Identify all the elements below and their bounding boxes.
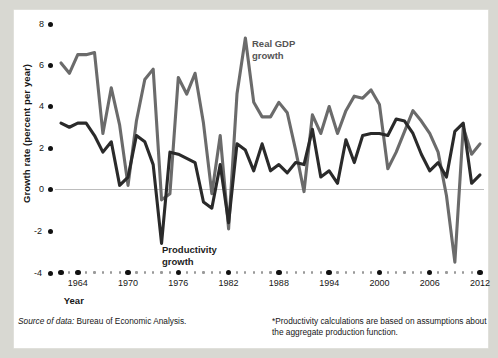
x-axis-minor-dot [454, 271, 456, 273]
x-tick-label-1970: 1970 [108, 278, 148, 288]
x-axis-minor-dot [160, 271, 162, 273]
x-axis-major-dot [477, 270, 483, 276]
x-axis-major-dot [125, 270, 131, 276]
x-axis-minor-dot [119, 271, 121, 273]
x-axis-minor-dot [202, 271, 204, 273]
figure-panel: Growth rate (percent per year) 8 6 4 2 0… [14, 10, 488, 348]
x-axis-minor-dot [211, 271, 213, 273]
x-axis-minor-dot [336, 271, 338, 273]
productivity-footnote: *Productivity calculations are based on … [272, 316, 487, 337]
x-axis-minor-dot [194, 271, 196, 273]
x-axis-minor-dot [445, 271, 447, 273]
x-axis-minor-dot [85, 271, 87, 273]
x-tick-label-2006: 2006 [410, 278, 450, 288]
annotation-real-gdp-growth: Real GDP growth [252, 38, 295, 61]
x-axis-minor-dot [236, 271, 238, 273]
x-tick-label-1964: 1964 [58, 278, 98, 288]
x-tick-label-2012: 2012 [460, 278, 498, 288]
x-axis-minor-dot [144, 271, 146, 273]
x-axis-minor-dot [471, 271, 473, 273]
x-axis-minor-dot [403, 271, 405, 273]
x-axis-major-dot [276, 270, 282, 276]
x-axis-minor-dot [370, 271, 372, 273]
x-tick-spare: 2000 [359, 278, 399, 288]
x-axis-minor-dot [169, 271, 171, 273]
source-note-lead: Source of data: [18, 316, 74, 326]
x-axis-minor-dot [303, 271, 305, 273]
x-axis-minor-dot [261, 271, 263, 273]
x-axis-minor-dot [152, 271, 154, 273]
annotation-productivity-growth: Productivity growth [162, 244, 217, 267]
x-axis-minor-dot [295, 271, 297, 273]
x-tick-label-1988: 1988 [259, 278, 299, 288]
x-axis-minor-dot [269, 271, 271, 273]
x-axis-minor-dot [320, 271, 322, 273]
x-axis-minor-dot [135, 271, 137, 273]
source-note-body: Bureau of Economic Analysis. [74, 316, 186, 326]
x-tick-label-1994: 1994 [309, 278, 349, 288]
x-axis-minor-dot [362, 271, 364, 273]
x-axis-minor-dot [387, 271, 389, 273]
x-axis-major-dot [75, 270, 81, 276]
x-axis-minor-dot [395, 271, 397, 273]
x-tick-label-1982: 1982 [209, 278, 249, 288]
x-axis-major-dot [58, 270, 64, 276]
plot-area [14, 10, 488, 348]
x-axis-minor-dot [412, 271, 414, 273]
series-line-real-gdp-growth [61, 38, 480, 262]
x-axis-title: Year [64, 295, 84, 306]
x-axis-minor-dot [186, 271, 188, 273]
source-note: Source of data: Bureau of Economic Analy… [18, 316, 186, 327]
series-line-productivity-growth [61, 119, 480, 244]
x-axis-major-dot [326, 270, 332, 276]
x-axis-minor-dot [437, 271, 439, 273]
x-tick-label-1976: 1976 [158, 278, 198, 288]
x-axis-minor-dot [253, 271, 255, 273]
x-axis-minor-dot [102, 271, 104, 273]
x-axis-minor-dot [345, 271, 347, 273]
x-axis-minor-dot [93, 271, 95, 273]
